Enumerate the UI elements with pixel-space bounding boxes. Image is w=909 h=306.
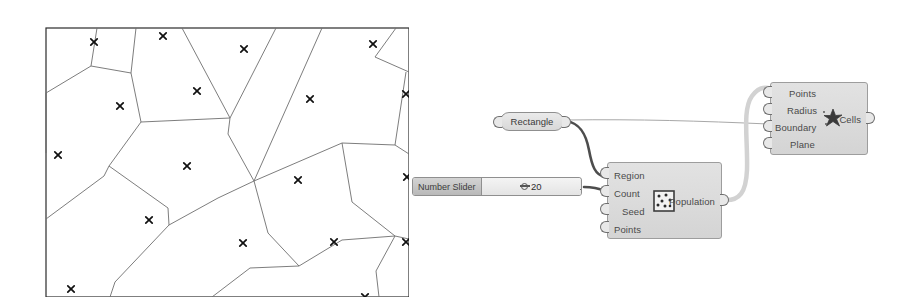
population-input-count: Count — [614, 188, 640, 199]
cells-output-label: Cells — [839, 114, 861, 125]
population-port-count[interactable] — [600, 185, 609, 197]
cells-input-plane: Plane — [790, 139, 815, 150]
population-input-points: Points — [614, 224, 641, 235]
number-slider-value-group: 20 — [521, 181, 542, 192]
cells-port-radius[interactable] — [763, 103, 772, 115]
cells-port-points[interactable] — [763, 86, 772, 98]
wire-rectangle-to-boundary — [566, 120, 768, 124]
voronoi-diagram-svg — [32, 14, 409, 297]
wire-population-to-points — [724, 88, 768, 200]
population-input-seed: Seed — [622, 206, 645, 217]
wire-rectangle-to-region — [566, 121, 605, 177]
rectangle-node[interactable]: Rectangle — [500, 112, 564, 131]
population-port-points[interactable] — [600, 221, 609, 233]
cells-port-output[interactable] — [866, 112, 875, 124]
number-slider-name-label: Number Slider — [413, 178, 482, 195]
cells-node[interactable]: Points Radius Boundary Plane Cells — [770, 82, 868, 155]
cells-port-plane[interactable] — [763, 137, 772, 149]
node-graph-canvas[interactable]: Rectangle Number Slider 20 Region Count … — [400, 0, 909, 306]
population-port-seed[interactable] — [600, 203, 609, 215]
screenshot-root: Rectangle Number Slider 20 Region Count … — [0, 0, 909, 306]
cells-input-radius: Radius — [787, 105, 817, 116]
population-node[interactable]: Region Count Seed Points — [607, 162, 722, 239]
rectangle-input-port[interactable] — [493, 116, 502, 128]
population-input-region: Region — [614, 170, 645, 181]
number-slider-value: 20 — [531, 181, 542, 192]
population-port-output[interactable] — [720, 194, 729, 206]
rectangle-output-port[interactable] — [562, 116, 571, 128]
cells-input-boundary: Boundary — [775, 122, 816, 133]
cells-input-points: Points — [789, 88, 816, 99]
population-port-region[interactable] — [600, 167, 609, 179]
slider-output-port[interactable] — [580, 178, 582, 190]
number-slider[interactable]: Number Slider 20 — [412, 177, 582, 196]
diagram-frame — [46, 28, 409, 297]
voronoi-diagram-panel — [32, 14, 409, 297]
slider-grip-icon[interactable] — [521, 183, 528, 190]
rectangle-node-label: Rectangle — [511, 116, 554, 127]
cells-port-boundary[interactable] — [763, 120, 772, 132]
population-output-label: Population — [669, 196, 715, 207]
number-slider-track[interactable]: 20 — [482, 178, 581, 195]
